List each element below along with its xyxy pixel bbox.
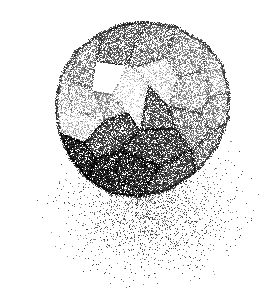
artwork-figure: Stippled faceted polyhedron with cast sh…	[0, 0, 268, 295]
stipple-artwork-canvas	[0, 0, 268, 295]
